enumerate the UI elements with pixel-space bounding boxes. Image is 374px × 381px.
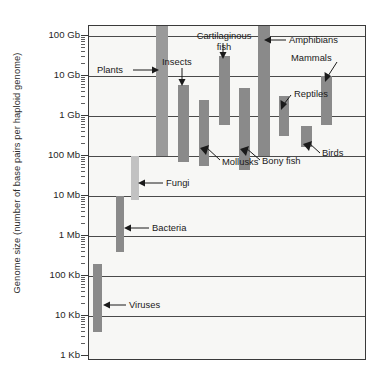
bar-viruses <box>93 264 102 332</box>
annotation-viruses: Viruses <box>129 299 160 310</box>
y-tick-label-10kb: 10 Kb <box>24 309 80 320</box>
annotation-amphibians: Amphibians <box>289 34 338 45</box>
y-minor-tick <box>81 237 85 238</box>
bar-bacteria <box>116 196 124 252</box>
genome-size-chart: Genome size (number of base pairs per ha… <box>0 0 374 381</box>
y-minor-tick <box>81 199 85 200</box>
bar-mammals <box>321 76 332 125</box>
y-axis-title: Genome size (number of base pairs per ha… <box>12 8 22 338</box>
y-minor-tick <box>81 167 85 168</box>
annotation-fungi: Fungi <box>166 177 189 188</box>
y-minor-tick <box>81 81 85 82</box>
y-tick-label-1gb: 1 Gb <box>24 109 80 120</box>
y-minor-tick <box>81 247 85 248</box>
y-minor-tick <box>81 96 85 97</box>
gridline-1mb <box>89 236 365 237</box>
y-minor-tick <box>81 287 85 288</box>
y-minor-tick <box>81 91 85 92</box>
y-minor-tick <box>81 161 85 162</box>
y-minor-tick <box>81 281 85 282</box>
y-minor-tick <box>81 336 85 337</box>
y-minor-tick <box>81 164 85 165</box>
y-minor-tick <box>81 244 85 245</box>
y-minor-tick <box>81 207 85 208</box>
annotation-bony-fish: Bony fish <box>262 155 301 166</box>
y-minor-tick <box>81 176 85 177</box>
annotation-bacteria: Bacteria <box>152 222 186 233</box>
gridline-10kb <box>89 316 365 317</box>
y-tick-label-1mb: 1 Mb <box>24 229 80 240</box>
y-minor-tick <box>81 343 85 344</box>
y-minor-tick <box>81 121 85 122</box>
y-minor-tick <box>81 77 85 78</box>
y-minor-tick <box>81 321 85 322</box>
y-tick-label-1kb: 1 Kb <box>24 349 80 360</box>
gridline-100kb <box>89 276 365 277</box>
y-minor-tick <box>81 37 85 38</box>
y-minor-tick <box>81 84 85 85</box>
bar-reptiles <box>279 96 289 136</box>
annotation-mollusks: Mollusks <box>222 156 258 167</box>
y-minor-tick <box>81 44 85 45</box>
y-minor-tick <box>81 79 85 80</box>
y-minor-tick <box>81 41 85 42</box>
y-minor-tick <box>81 277 85 278</box>
y-minor-tick <box>81 127 85 128</box>
y-minor-tick <box>81 256 85 257</box>
y-minor-tick <box>81 303 85 304</box>
y-minor-tick <box>81 211 85 212</box>
annotation-cartilaginous-fish-line1: Cartilaginous <box>186 30 262 41</box>
y-minor-tick <box>81 263 85 264</box>
y-minor-tick <box>81 216 85 217</box>
annotation-cartilaginous-fish: Cartilaginous fish <box>186 30 262 52</box>
annotation-reptiles: Reptiles <box>294 88 328 99</box>
y-minor-tick <box>81 47 85 48</box>
y-minor-tick <box>81 183 85 184</box>
y-minor-tick <box>81 331 85 332</box>
y-minor-tick <box>81 171 85 172</box>
bar-plants <box>156 26 168 156</box>
y-minor-tick <box>81 317 85 318</box>
y-minor-tick <box>81 223 85 224</box>
bar-mollusks <box>199 100 209 166</box>
y-minor-tick <box>81 51 85 52</box>
y-minor-tick <box>81 201 85 202</box>
y-minor-tick <box>81 63 85 64</box>
y-minor-tick <box>81 136 85 137</box>
annotation-birds: Birds <box>322 147 343 158</box>
y-minor-tick <box>81 296 85 297</box>
y-minor-tick <box>81 327 85 328</box>
y-tick-label-10gb: 10 Gb <box>24 69 80 80</box>
y-minor-tick <box>81 143 85 144</box>
y-minor-tick <box>81 131 85 132</box>
annotation-mammals: Mammals <box>291 52 332 63</box>
bar-fungi <box>131 156 139 200</box>
y-minor-tick <box>81 103 85 104</box>
y-minor-tick <box>81 324 85 325</box>
y-axis-tick-labels: 100 Gb 10 Gb 1 Gb 100 Mb 10 Mb 1 Mb 100 … <box>24 0 80 381</box>
y-minor-tick <box>81 251 85 252</box>
y-tick-label-10mb: 10 Mb <box>24 189 80 200</box>
y-minor-tick <box>81 124 85 125</box>
y-minor-tick <box>81 241 85 242</box>
y-major-tick-8 <box>81 355 88 356</box>
y-minor-tick <box>81 87 85 88</box>
y-minor-tick <box>81 319 85 320</box>
y-minor-tick <box>81 197 85 198</box>
y-tick-label-100kb: 100 Kb <box>24 269 80 280</box>
y-minor-tick <box>81 279 85 280</box>
y-minor-tick <box>81 159 85 160</box>
bar-insects <box>178 85 189 162</box>
y-minor-tick <box>81 291 85 292</box>
bar-birds <box>301 126 312 146</box>
y-minor-tick <box>81 119 85 120</box>
y-tick-label-100mb: 100 Mb <box>24 149 80 160</box>
y-minor-tick <box>81 239 85 240</box>
y-minor-tick <box>81 204 85 205</box>
y-minor-tick <box>81 56 85 57</box>
y-minor-tick <box>81 117 85 118</box>
y-minor-tick <box>81 39 85 40</box>
y-minor-tick <box>81 284 85 285</box>
annotation-cartilaginous-fish-line2: fish <box>186 41 262 52</box>
y-tick-label-100gb: 100 Gb <box>24 29 80 40</box>
